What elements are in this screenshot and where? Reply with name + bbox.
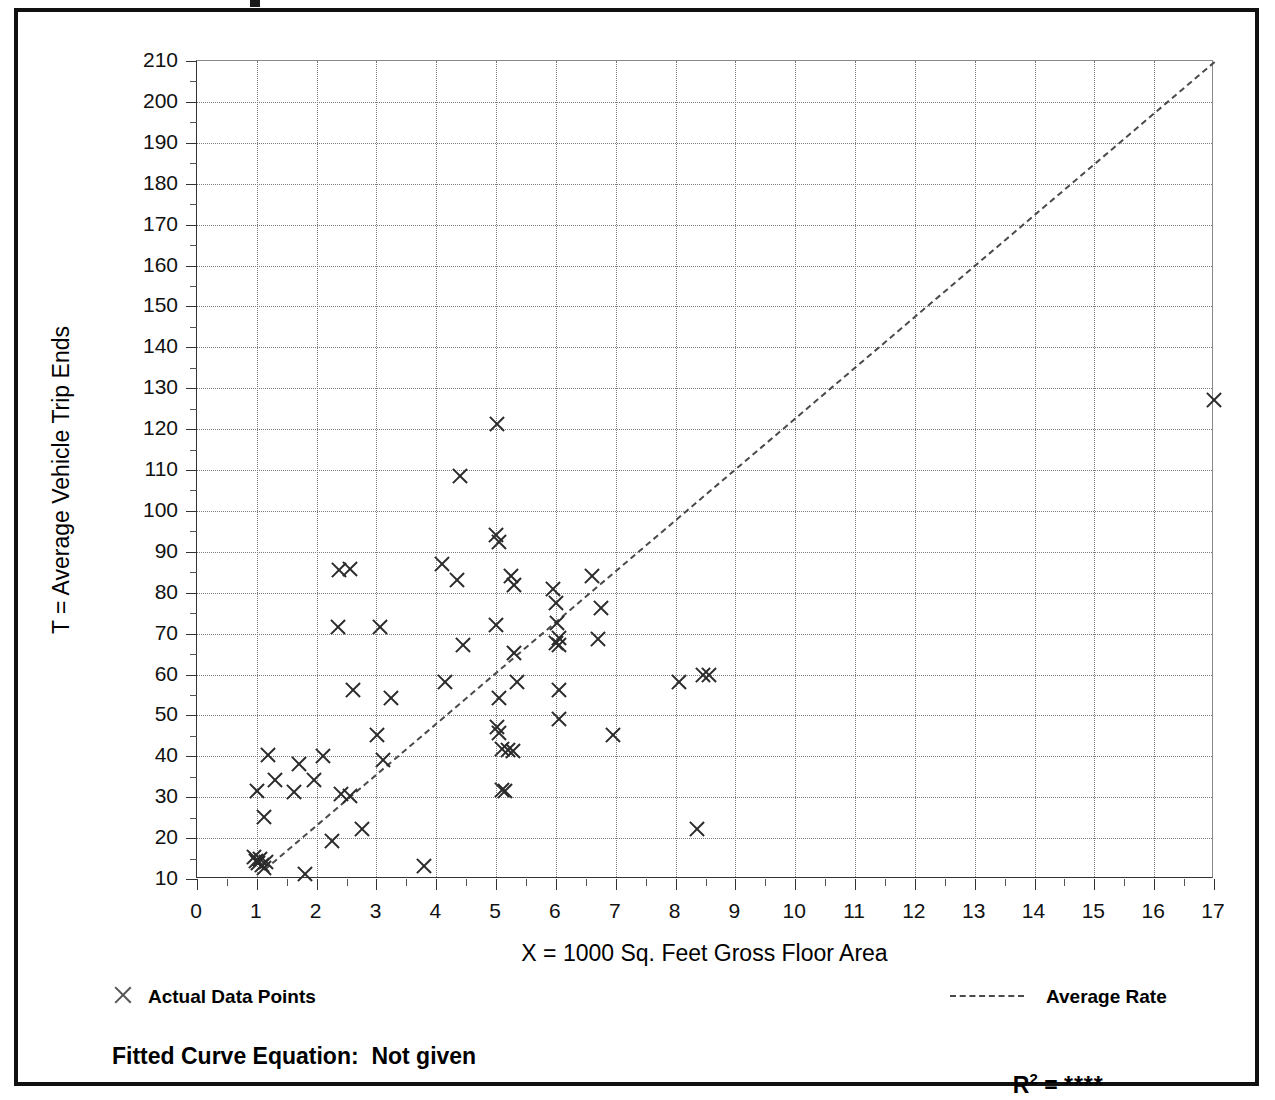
y-axis-tick xyxy=(186,388,197,389)
y-axis-tick xyxy=(186,756,197,757)
data-point-marker xyxy=(504,643,524,663)
y-axis-minor-tick xyxy=(190,204,197,205)
data-point-marker xyxy=(588,629,608,649)
y-axis-minor-tick xyxy=(190,777,197,778)
gridline-horizontal xyxy=(197,593,1212,594)
x-axis-tick xyxy=(616,879,617,890)
gridline-vertical xyxy=(795,61,796,877)
x-axis-tick xyxy=(317,879,318,890)
gridline-vertical xyxy=(496,61,497,877)
x-axis-minor-tick xyxy=(406,879,407,886)
y-axis-tick xyxy=(186,225,197,226)
x-axis-minor-tick xyxy=(1064,879,1065,886)
x-axis-tick-label: 5 xyxy=(470,900,520,921)
gridline-horizontal xyxy=(197,470,1212,471)
y-axis-minor-tick xyxy=(190,81,197,82)
x-axis-tick-label: 16 xyxy=(1128,900,1178,921)
gridline-vertical xyxy=(257,61,258,877)
x-axis-tick-label: 1 xyxy=(231,900,281,921)
x-axis-tick-label: 9 xyxy=(709,900,759,921)
y-axis-tick xyxy=(186,715,197,716)
y-axis-minor-tick xyxy=(190,163,197,164)
legend-actual-data-points-label: Actual Data Points xyxy=(148,986,316,1008)
y-axis-minor-tick xyxy=(190,450,197,451)
x-axis-tick-label: 13 xyxy=(949,900,999,921)
gridline-vertical xyxy=(317,61,318,877)
data-point-marker xyxy=(414,856,434,876)
gridline-horizontal xyxy=(197,756,1212,757)
x-axis-minor-tick xyxy=(825,879,826,886)
data-point-marker xyxy=(343,680,363,700)
data-point-marker xyxy=(1204,390,1224,410)
y-axis-minor-tick xyxy=(190,409,197,410)
gridline-horizontal xyxy=(197,552,1212,553)
y-axis-title: T = Average Vehicle Trip Ends xyxy=(48,0,75,300)
y-axis-tick-label: 130 xyxy=(120,376,178,397)
data-point-marker xyxy=(322,831,342,851)
data-point-marker xyxy=(549,680,569,700)
y-axis-tick xyxy=(186,593,197,594)
x-axis-tick-label: 11 xyxy=(829,900,879,921)
x-axis-minor-tick xyxy=(586,879,587,886)
gridline-horizontal xyxy=(197,511,1212,512)
x-axis-tick xyxy=(1035,879,1036,890)
x-axis-tick-label: 8 xyxy=(650,900,700,921)
gridline-vertical xyxy=(676,61,677,877)
x-axis-tick-label: 14 xyxy=(1009,900,1059,921)
x-axis-tick xyxy=(855,879,856,890)
x-axis-tick-label: 0 xyxy=(171,900,221,921)
x-axis-tick xyxy=(556,879,557,890)
gridline-horizontal xyxy=(197,715,1212,716)
gridline-vertical xyxy=(855,61,856,877)
data-point-marker xyxy=(453,635,473,655)
gridline-horizontal xyxy=(197,102,1212,103)
x-axis-tick xyxy=(376,879,377,890)
y-axis-tick xyxy=(186,552,197,553)
x-axis-tick xyxy=(735,879,736,890)
y-axis-minor-tick xyxy=(190,613,197,614)
y-axis-tick-label: 210 xyxy=(120,49,178,70)
x-axis-tick-label: 4 xyxy=(410,900,460,921)
y-axis-tick-label: 60 xyxy=(120,663,178,684)
x-axis-tick xyxy=(496,879,497,890)
data-point-marker xyxy=(329,560,349,580)
y-axis-tick xyxy=(186,61,197,62)
r-squared-exponent: 2 xyxy=(1029,1070,1037,1087)
gridline-vertical xyxy=(376,61,377,877)
x-axis-tick xyxy=(197,879,198,890)
gridline-horizontal xyxy=(197,266,1212,267)
gridline-horizontal xyxy=(197,634,1212,635)
x-axis-minor-tick xyxy=(287,879,288,886)
x-axis-minor-tick xyxy=(885,879,886,886)
y-axis-tick xyxy=(186,797,197,798)
y-axis-tick-label: 40 xyxy=(120,744,178,765)
r-squared-prefix: R xyxy=(1013,1072,1030,1098)
gridline-vertical xyxy=(1094,61,1095,877)
y-axis-tick-label: 140 xyxy=(120,335,178,356)
x-axis-minor-tick xyxy=(1184,879,1185,886)
gridline-vertical xyxy=(556,61,557,877)
data-point-marker xyxy=(352,819,372,839)
r-squared-equals: = xyxy=(1038,1072,1064,1098)
x-axis-minor-tick xyxy=(646,879,647,886)
y-axis-minor-tick xyxy=(190,572,197,573)
data-point-marker xyxy=(447,570,467,590)
y-axis-tick xyxy=(186,634,197,635)
data-point-marker xyxy=(591,598,611,618)
gridline-horizontal xyxy=(197,388,1212,389)
y-axis-tick-label: 120 xyxy=(120,417,178,438)
data-point-marker xyxy=(284,782,304,802)
data-point-marker xyxy=(246,851,266,871)
x-axis-minor-tick xyxy=(347,879,348,886)
y-axis-tick-label: 170 xyxy=(120,213,178,234)
y-axis-tick-label: 30 xyxy=(120,785,178,806)
y-axis-tick-label: 180 xyxy=(120,172,178,193)
data-point-marker xyxy=(501,566,521,586)
y-axis-tick-label: 20 xyxy=(120,826,178,847)
gridline-horizontal xyxy=(197,838,1212,839)
x-axis-tick xyxy=(257,879,258,890)
data-point-marker xyxy=(687,819,707,839)
x-axis-minor-tick xyxy=(466,879,467,886)
y-axis-title-text: T = Average Vehicle Trip Ends xyxy=(48,300,75,660)
y-axis-tick-label: 80 xyxy=(120,581,178,602)
